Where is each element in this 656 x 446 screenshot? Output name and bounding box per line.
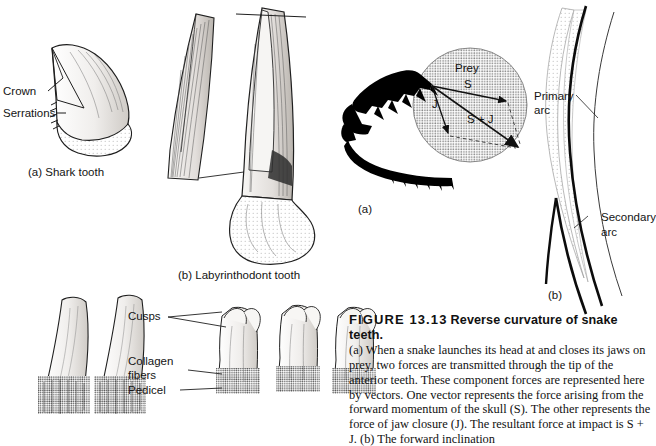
label-collagen-fibers: fibers	[128, 369, 156, 383]
shark-tooth-illustration	[48, 45, 132, 156]
labyrinthodont-tooth-illustration	[168, 8, 315, 264]
snake-skull-vector-diagram	[341, 48, 527, 191]
caption-panel-a: (a)	[358, 203, 372, 215]
pedicellate-teeth-illustration	[38, 295, 376, 414]
label-primary-arc-line2: arc	[534, 104, 550, 118]
figure-caption-body: (a) When a snake launches its head at an…	[349, 343, 652, 446]
label-vector-j: J	[432, 98, 438, 110]
caption-labyrinthodont-tooth: (b) Labyrinthodont tooth	[178, 269, 300, 281]
caption-shark-tooth: (a) Shark tooth	[28, 166, 104, 178]
label-pedicel: Pedicel	[128, 384, 166, 398]
label-primary-arc: Primary	[534, 90, 574, 104]
label-vector-s-plus-j: S + J	[467, 113, 494, 125]
figure-number: FIGURE 13.13	[349, 312, 447, 327]
label-serrations: Serrations	[3, 107, 55, 121]
label-cusps: Cusps	[128, 310, 161, 324]
label-secondary-arc-line2: arc	[601, 226, 617, 240]
tooth-curvature-arc-diagram	[546, 6, 622, 314]
label-secondary-arc: Secondary	[601, 211, 656, 225]
label-prey: Prey	[455, 62, 479, 74]
label-collagen: Collagen	[128, 355, 173, 369]
label-vector-s: S	[464, 78, 472, 90]
caption-panel-b: (b)	[548, 289, 562, 301]
label-crown: Crown	[3, 85, 36, 99]
figure-caption: FIGURE 13.13 Reverse curvature of snake …	[349, 313, 652, 446]
